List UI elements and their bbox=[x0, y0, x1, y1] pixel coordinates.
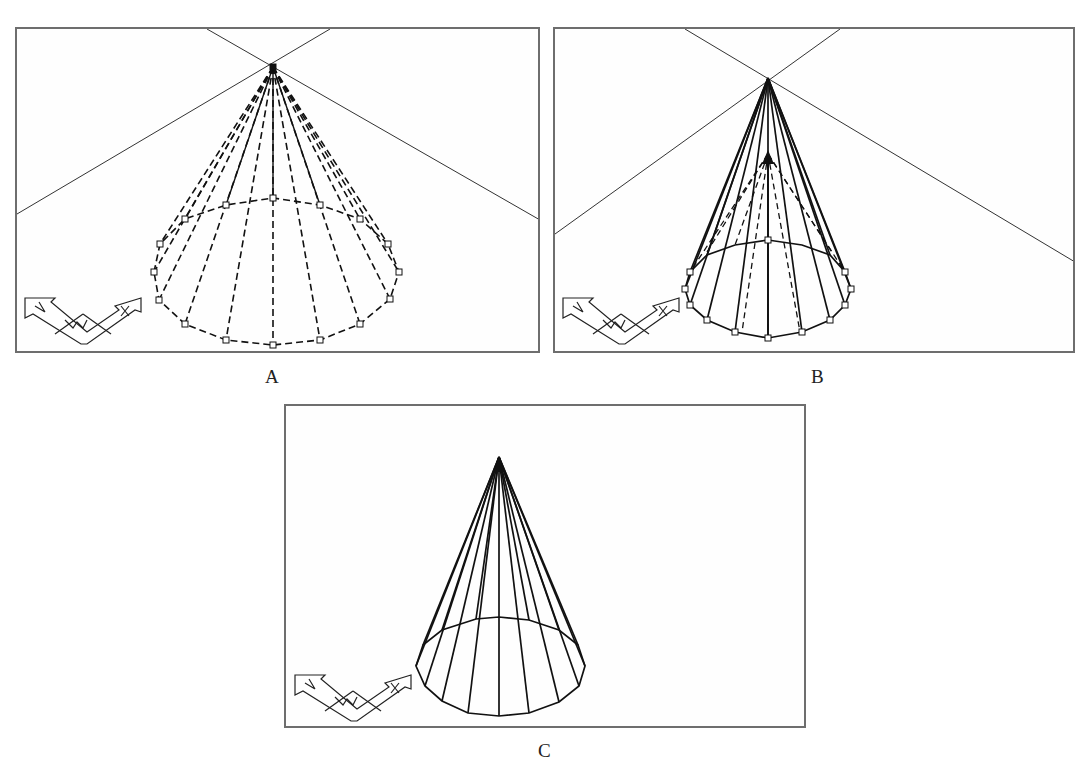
cone-dashed-drawing bbox=[17, 29, 540, 353]
panel-a-label: A bbox=[265, 366, 279, 388]
grip-markers bbox=[151, 64, 402, 348]
ucs-icon bbox=[25, 298, 141, 344]
crosshair-cursor bbox=[555, 29, 1075, 262]
ucs-icon bbox=[563, 298, 679, 344]
panel-b-label: B bbox=[811, 366, 824, 388]
panel-c-viewport bbox=[284, 404, 806, 728]
cone-stretch-drawing bbox=[555, 29, 1075, 353]
ucs-icon bbox=[295, 675, 411, 721]
panel-a-viewport bbox=[15, 27, 540, 353]
crosshair-cursor bbox=[17, 29, 540, 220]
panel-c-label: C bbox=[538, 740, 551, 762]
panel-b-viewport bbox=[553, 27, 1075, 353]
cone-result-drawing bbox=[286, 406, 806, 728]
